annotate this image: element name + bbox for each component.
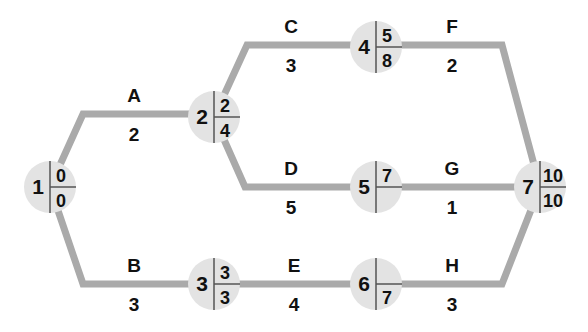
activity-name-e: E [288, 255, 301, 276]
node-2: 224 [188, 91, 240, 143]
network-diagram: A2B3C3D5E4F2G1H3 100224333458576771010 [0, 0, 588, 332]
node-id: 2 [196, 105, 208, 128]
node-earliest-time: 5 [382, 26, 392, 46]
node-4: 458 [350, 21, 402, 73]
node-id: 3 [196, 272, 208, 295]
activity-duration-b: 3 [129, 294, 140, 315]
node-earliest-time: 7 [382, 166, 392, 186]
activity-name-g: G [445, 158, 460, 179]
activity-name-d: D [284, 158, 298, 179]
node-latest-time: 4 [220, 121, 230, 141]
activity-name-b: B [127, 255, 141, 276]
activity-name-f: F [446, 16, 458, 37]
node-1: 100 [24, 161, 76, 213]
node-earliest-time: 10 [543, 166, 563, 186]
node-id: 5 [358, 175, 370, 198]
node-6: 67 [350, 258, 402, 310]
activity-duration-h: 3 [447, 294, 458, 315]
activity-name-c: C [284, 16, 298, 37]
node-latest-time: 10 [543, 191, 563, 211]
labels-layer: A2B3C3D5E4F2G1H3 [127, 16, 459, 315]
node-id: 6 [358, 272, 370, 295]
node-7: 71010 [514, 161, 566, 213]
node-latest-time: 8 [382, 51, 392, 71]
node-earliest-time: 3 [220, 263, 230, 283]
activity-duration-a: 2 [129, 124, 140, 145]
activity-duration-d: 5 [286, 197, 297, 218]
node-earliest-time: 2 [220, 96, 230, 116]
node-id: 7 [522, 175, 534, 198]
node-latest-time: 7 [382, 288, 392, 308]
activity-name-h: H [445, 255, 459, 276]
activity-name-a: A [127, 85, 141, 106]
node-3: 333 [188, 258, 240, 310]
node-id: 4 [358, 35, 370, 58]
activity-duration-g: 1 [447, 197, 458, 218]
node-id: 1 [32, 175, 44, 198]
node-earliest-time: 0 [56, 166, 66, 186]
activity-duration-e: 4 [289, 294, 300, 315]
node-latest-time: 0 [56, 191, 66, 211]
activity-duration-f: 2 [447, 55, 458, 76]
node-5: 57 [350, 161, 402, 213]
activity-duration-c: 3 [286, 55, 297, 76]
node-latest-time: 3 [220, 288, 230, 308]
